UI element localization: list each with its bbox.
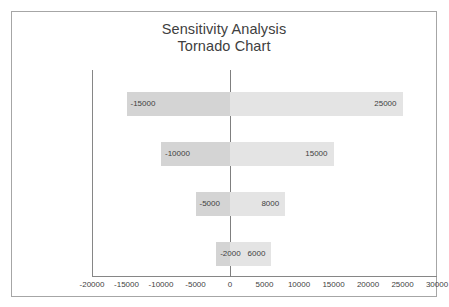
bar-row: Rollout -2000 6000 bbox=[92, 242, 437, 266]
chart-title: Sensitivity Analysis Tornado Chart bbox=[12, 21, 436, 55]
x-axis-tick-labels: -20000-15000-10000-500005000100001500020… bbox=[52, 280, 449, 294]
bar-value-high-software: 15000 bbox=[230, 142, 328, 166]
chart-title-sub: Tornado Chart bbox=[12, 38, 436, 55]
bar-value-low-software: -10000 bbox=[165, 142, 226, 166]
bar-value-low-development: -15000 bbox=[131, 92, 227, 116]
chart-frame: Sensitivity Analysis Tornado Chart Devel… bbox=[11, 11, 437, 297]
x-axis-line bbox=[92, 276, 437, 277]
bar-value-high-development: 25000 bbox=[230, 92, 397, 116]
bar-row: Testing -5000 8000 bbox=[92, 192, 437, 216]
bar-row: Software -10000 15000 bbox=[92, 142, 437, 166]
bar-value-high-testing: 8000 bbox=[230, 192, 279, 216]
bar-row: Development -15000 25000 bbox=[92, 92, 437, 116]
bar-value-high-rollout: 6000 bbox=[230, 242, 265, 266]
bar-value-low-testing: -5000 bbox=[200, 192, 230, 216]
plot-area: Development -15000 25000 Software -10000… bbox=[92, 70, 437, 277]
chart-title-main: Sensitivity Analysis bbox=[12, 21, 436, 38]
x-tick-label: 30000 bbox=[414, 280, 449, 289]
